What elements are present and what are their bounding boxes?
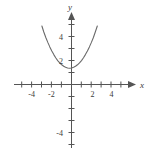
- x-axis-label: x: [139, 80, 144, 90]
- parabola-curve: [42, 26, 97, 68]
- y-axis-arrowhead: [68, 12, 75, 20]
- y-axis-label: y: [67, 2, 72, 12]
- x-tick-label--2: -2: [48, 90, 55, 99]
- y-tick-label--4: -4: [56, 129, 63, 138]
- y-tick-label-2: 2: [59, 57, 63, 66]
- x-tick-label-2: 2: [91, 90, 95, 99]
- x-tick-label--4: -4: [28, 90, 35, 99]
- x-axis-arrowhead: [128, 81, 136, 88]
- parabola-plot: y x -4 -2 2 4 4 2 -4: [0, 0, 151, 151]
- y-tick-label-4: 4: [59, 33, 63, 42]
- x-tick-label-4: 4: [110, 90, 114, 99]
- graph-figure: y x -4 -2 2 4 4 2 -4: [0, 0, 151, 151]
